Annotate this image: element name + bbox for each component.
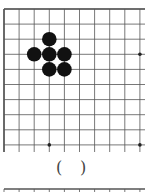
open-paren: ( [56,158,62,177]
go-board [0,0,145,192]
black-stone [42,47,57,62]
star-point [138,143,142,147]
black-stone [42,62,57,77]
black-stone [57,47,72,62]
close-paren: ) [80,158,86,177]
black-stone [57,62,72,77]
black-stone [42,32,57,47]
black-stone [27,47,42,62]
star-point [138,53,142,57]
star-point [48,143,52,147]
